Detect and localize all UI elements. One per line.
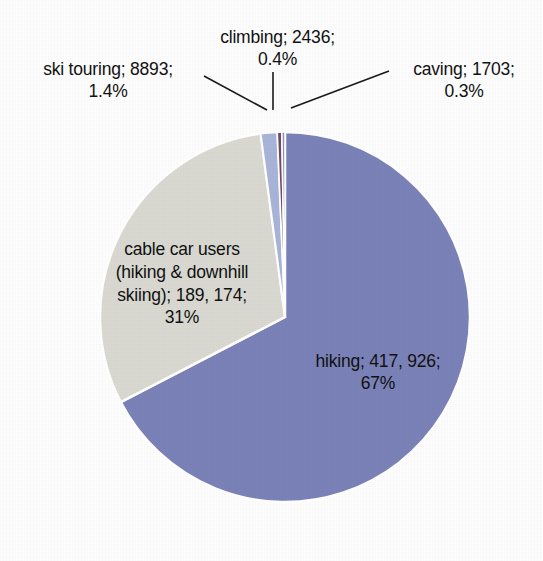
- slice-label-cable-car-users: cable car users (hiking & downhill skiin…: [78, 238, 286, 329]
- slice-label-climbing: climbing; 2436; 0.4%: [190, 26, 365, 70]
- slice-label-ski-touring: ski touring; 8893; 1.4%: [8, 58, 208, 102]
- leader-lines: [204, 71, 389, 110]
- leader-line-caving: [291, 71, 389, 108]
- slice-label-hiking: hiking; 417, 926; 67%: [288, 350, 468, 394]
- leader-line-ski-touring: [204, 76, 267, 110]
- slice-label-caving: caving; 1703; 0.3%: [388, 58, 540, 102]
- pie-chart-page: ski touring; 8893; 1.4% climbing; 2436; …: [0, 0, 543, 561]
